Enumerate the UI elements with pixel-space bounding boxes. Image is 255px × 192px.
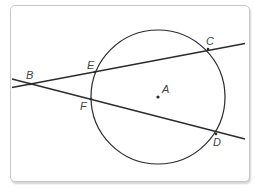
label-B: B xyxy=(26,69,33,81)
label-A: A xyxy=(161,83,169,95)
label-C: C xyxy=(206,35,214,47)
secant-BFD xyxy=(12,79,245,139)
label-E: E xyxy=(87,59,95,71)
point-E-dot xyxy=(94,71,97,74)
label-D: D xyxy=(213,136,221,148)
point-F-dot xyxy=(90,98,93,101)
point-B-dot xyxy=(29,83,32,86)
label-F: F xyxy=(80,100,88,112)
point-A-dot xyxy=(156,95,159,98)
point-D-dot xyxy=(215,133,218,136)
secant-BEC xyxy=(12,44,245,88)
geometry-diagram: A B C D E F xyxy=(0,0,255,192)
point-C-dot xyxy=(207,48,210,51)
